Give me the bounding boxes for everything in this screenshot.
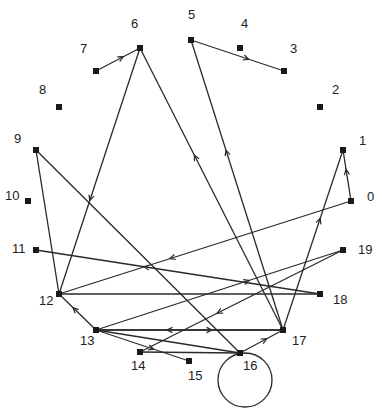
node-label-18: 18 xyxy=(333,292,347,307)
edge-13-to-16 xyxy=(96,330,240,353)
node-4 xyxy=(237,45,243,51)
node-label-14: 14 xyxy=(131,358,145,373)
node-label-13: 13 xyxy=(80,333,94,348)
node-8 xyxy=(56,104,62,110)
node-label-9: 9 xyxy=(14,131,21,146)
node-label-2: 2 xyxy=(332,82,339,97)
node-10 xyxy=(25,198,31,204)
edge-14-to-16 xyxy=(140,352,240,353)
edge-13-to-19 xyxy=(96,250,343,330)
node-7 xyxy=(93,68,99,74)
node-label-16: 16 xyxy=(243,358,257,373)
node-19 xyxy=(340,247,346,253)
node-label-10: 10 xyxy=(5,188,19,203)
node-17 xyxy=(280,327,286,333)
node-12 xyxy=(56,291,62,297)
node-label-8: 8 xyxy=(39,82,46,97)
node-label-0: 0 xyxy=(367,189,374,204)
nodes-layer xyxy=(25,37,354,364)
edge-13-to-12 xyxy=(59,294,96,330)
node-label-12: 12 xyxy=(39,293,53,308)
node-9 xyxy=(33,147,39,153)
node-3 xyxy=(281,68,287,74)
edge-5-to-3 xyxy=(191,40,284,71)
node-label-5: 5 xyxy=(188,7,195,22)
node-16 xyxy=(237,350,243,356)
edges-layer xyxy=(36,40,351,407)
edge-17-to-6 xyxy=(140,48,283,330)
node-label-3: 3 xyxy=(290,41,297,56)
node-1 xyxy=(340,147,346,153)
node-label-11: 11 xyxy=(12,241,26,256)
edge-9-to-16 xyxy=(36,150,240,353)
node-label-19: 19 xyxy=(358,242,372,257)
edge-0-to-12 xyxy=(59,201,351,294)
node-label-6: 6 xyxy=(131,16,138,31)
node-0 xyxy=(348,198,354,204)
edge-0-to-1 xyxy=(343,150,351,201)
edge-16-to-17 xyxy=(240,330,283,353)
node-6 xyxy=(137,45,143,51)
edge-19-to-14 xyxy=(140,250,343,352)
graph-canvas: 012345678910111213141516171819 xyxy=(0,0,382,413)
node-5 xyxy=(188,37,194,43)
node-label-7: 7 xyxy=(80,41,87,56)
arrows-layer xyxy=(73,55,349,350)
node-15 xyxy=(186,358,192,364)
node-11 xyxy=(33,247,39,253)
edge-9-to-12 xyxy=(36,150,59,294)
node-14 xyxy=(137,349,143,355)
edge-6-to-12 xyxy=(59,48,140,294)
node-label-1: 1 xyxy=(359,133,366,148)
node-label-4: 4 xyxy=(241,16,248,31)
node-18 xyxy=(317,291,323,297)
node-label-15: 15 xyxy=(188,368,202,383)
node-label-17: 17 xyxy=(292,333,306,348)
node-2 xyxy=(317,104,323,110)
